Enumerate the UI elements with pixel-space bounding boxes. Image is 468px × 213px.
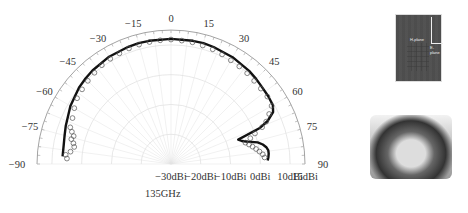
tick-mark (221, 40, 222, 43)
tick-mark (288, 105, 291, 106)
measured-point (250, 144, 255, 149)
tick-mark (251, 58, 253, 60)
tick-mark (257, 63, 259, 65)
grid-spoke (171, 40, 222, 164)
tick-mark (42, 129, 45, 130)
tick-mark (197, 33, 198, 36)
tick-mark (213, 37, 214, 40)
tick-mark (292, 113, 295, 114)
grid-spoke (171, 69, 266, 164)
tick-mark (44, 121, 47, 122)
tick-mark (264, 69, 266, 71)
angle-tick-label: −15 (125, 18, 141, 29)
tick-mark (83, 63, 85, 65)
radial-tick-label: 0dBi (250, 171, 271, 182)
grid-spoke (120, 40, 171, 164)
angle-tick-label: 75 (307, 121, 318, 132)
annotation-line (431, 17, 432, 43)
measured-point (248, 136, 253, 141)
e-plane-label: E-plane (430, 45, 441, 55)
tick-mark (145, 33, 146, 36)
tick-mark (97, 53, 99, 55)
grid-spoke (38, 147, 171, 164)
tick-mark (269, 76, 271, 78)
tick-mark (60, 90, 62, 92)
radial-tick-label: −10dBi (215, 171, 247, 182)
tick-mark (136, 35, 137, 38)
angle-tick-label: 15 (204, 18, 215, 29)
grid-spoke (171, 35, 206, 164)
antenna-array-pattern (407, 43, 429, 71)
measured-point (69, 129, 74, 134)
tick-mark (104, 48, 106, 51)
tick-mark (128, 37, 129, 40)
simulated-curve (63, 39, 274, 161)
tick-mark (244, 53, 246, 55)
grid-spoke (171, 147, 304, 164)
angle-tick-label: 60 (292, 86, 303, 97)
radial-tick-labels: −30dBi−20dBi−10dBi0dBi10dBi15dBi (155, 171, 318, 182)
angle-tick-label: 45 (269, 56, 280, 67)
angle-tick-label: 90 (318, 159, 329, 170)
tick-mark (89, 58, 91, 60)
tick-mark (40, 138, 43, 139)
tick-mark (299, 138, 302, 139)
tick-mark (284, 97, 287, 99)
tick-mark (229, 44, 230, 47)
measured-point (80, 87, 85, 92)
angle-tick-label: −45 (60, 56, 76, 67)
grid-spoke (171, 31, 188, 164)
measured-point (68, 149, 73, 154)
tick-mark (70, 76, 72, 78)
measurement-setup-photo (370, 115, 452, 179)
frequency-label: 135GHz (145, 188, 181, 199)
tick-mark (65, 82, 67, 84)
tick-mark (275, 82, 277, 84)
grid-spoke (154, 31, 171, 164)
tick-mark (295, 121, 298, 122)
tick-mark (51, 105, 54, 106)
antenna-photo: H-plane E-plane (395, 14, 442, 82)
angle-tick-label: −30 (90, 33, 106, 44)
tick-mark (280, 90, 282, 92)
measured-point (75, 96, 80, 101)
measured-point (68, 125, 73, 130)
measured-point (70, 116, 75, 121)
grid-spoke (171, 113, 295, 164)
radial-tick-label: −20dBi (185, 171, 217, 182)
h-plane-label: H-plane (410, 37, 424, 42)
tick-mark (298, 129, 301, 130)
tick-mark (120, 40, 121, 43)
tick-mark (47, 113, 50, 114)
annotation-line (431, 43, 443, 44)
grid-spoke (42, 129, 171, 164)
tick-mark (112, 44, 113, 47)
tick-mark (76, 69, 78, 71)
grid-spoke (171, 129, 300, 164)
radial-tick-label: −30dBi (155, 171, 187, 182)
angle-tick-label: 0 (168, 13, 173, 24)
tick-mark (237, 48, 239, 51)
angle-tick-label: −90 (9, 159, 25, 170)
angle-tick-label: 30 (239, 33, 250, 44)
measured-point (245, 71, 250, 76)
measured-point (254, 147, 259, 152)
angle-tick-label: −60 (36, 86, 52, 97)
grid-spoke (76, 69, 171, 164)
angle-tick-label: −75 (22, 121, 38, 132)
grid-spoke (136, 35, 171, 164)
tick-mark (55, 97, 58, 99)
radial-tick-label: 15dBi (292, 171, 318, 182)
tick-mark (205, 35, 206, 38)
